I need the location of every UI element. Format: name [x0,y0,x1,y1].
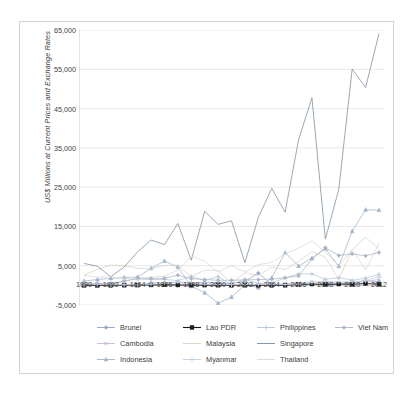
legend-item-myanmar[interactable]: Myanmar [182,353,237,365]
y-axis-tick: 45,000 [54,104,76,113]
x-axis-tick: 2010 [344,280,360,289]
legend-item-viet-nam[interactable]: Viet Nam [334,321,388,333]
data-point [377,251,381,255]
x-axis-tick-labels: 1990199219941996199820002002200420062008… [79,280,384,294]
legend-swatch-thailand-icon [256,355,276,364]
data-point [377,272,382,277]
legend-item-indonesia[interactable]: Indonesia [96,353,152,365]
legend-swatch-philippines-icon [256,323,276,332]
legend-swatch-lao-pdr-icon [182,323,202,332]
legend-item-philippines[interactable]: Philippines [256,321,316,333]
legend-swatch-myanmar-icon [182,355,202,364]
legend-item-thailand[interactable]: Thailand [256,353,308,365]
legend-item-singapore[interactable]: Singapore [256,337,314,349]
x-axis-tick: 2004 [264,280,280,289]
legend-label: Myanmar [206,355,237,364]
data-point [310,272,315,277]
series-malaysia [84,237,379,283]
legend-label: Malaysia [206,339,235,348]
chart-legend: BruneiLao PDRPhilippinesViet NamCambodia… [34,319,382,369]
legend-item-malaysia[interactable]: Malaysia [182,337,235,349]
y-axis-tick: 5,000 [58,261,76,270]
data-point [337,254,341,258]
data-point [283,276,287,280]
x-axis-tick: 1994 [130,280,146,289]
data-point [163,259,167,263]
legend-swatch-indonesia-icon [96,355,116,364]
data-point [190,357,195,362]
legend-item-brunei[interactable]: Brunei [96,321,141,333]
y-axis-tick-labels: 65,00055,00045,00035,00025,00015,0005,00… [32,30,76,305]
legend-swatch-cambodia-icon [96,339,116,348]
data-point [104,325,108,329]
legend-label: Brunei [120,323,141,332]
legend-label: Viet Nam [358,323,388,332]
legend-label: Singapore [280,339,314,348]
y-axis-tick: 25,000 [54,183,76,192]
legend-item-lao-pdr[interactable]: Lao PDR [182,321,236,333]
data-point [176,273,180,277]
legend-label: Lao PDR [206,323,236,332]
legend-label: Indonesia [120,355,152,364]
legend-swatch-brunei-icon [96,323,116,332]
y-axis-tick: 65,000 [54,26,76,35]
legend-label: Thailand [280,355,308,364]
plot-area [79,30,384,305]
x-axis-tick: 2006 [291,280,307,289]
y-axis-tick: 15,000 [54,222,76,231]
legend-label: Philippines [280,323,316,332]
legend-swatch-malaysia-icon [182,339,202,348]
series-line [84,33,379,276]
chart-frame: US$ Millions at Current Prices and Excha… [19,21,394,374]
y-axis-tick: 35,000 [54,143,76,152]
series-line [84,237,379,283]
y-axis-tick: 55,000 [54,65,76,74]
x-axis-tick: 1996 [156,280,172,289]
x-axis-tick: 2012 [371,280,387,289]
x-axis-tick: 2002 [237,280,253,289]
chart-container: US$ Millions at Current Prices and Excha… [0,0,413,394]
y-axis-tick: -5,000 [56,301,76,310]
x-axis-tick: 1992 [103,280,119,289]
legend-swatch-viet-nam-icon [334,323,354,332]
data-point [190,325,194,329]
data-point [342,325,346,329]
data-point [364,254,368,258]
x-axis-tick: 2000 [210,280,226,289]
x-axis-tick: 1998 [183,280,199,289]
series-plot [79,30,384,305]
x-axis-tick: 1990 [76,280,92,289]
legend-item-cambodia[interactable]: Cambodia [96,337,154,349]
series-singapore [84,33,379,276]
data-point [264,325,269,330]
x-axis-tick: 2008 [317,280,333,289]
legend-swatch-singapore-icon [256,339,276,348]
legend-label: Cambodia [120,339,154,348]
